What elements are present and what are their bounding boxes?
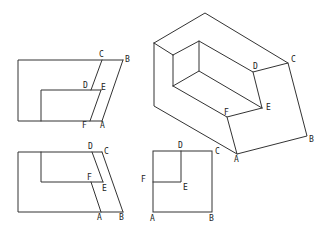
top-view-label-e: E <box>102 184 107 193</box>
side-view-step <box>153 151 181 182</box>
edge-c-b <box>102 152 123 212</box>
isometric-view-label-b: B <box>309 135 314 144</box>
front-view-label-b: B <box>125 55 130 64</box>
top-view-label-b: B <box>119 213 124 222</box>
edge-d-e <box>92 152 103 182</box>
edge-f-a <box>91 182 101 212</box>
front-view-label-f: F <box>82 121 87 130</box>
top-view-label-f: F <box>87 173 92 182</box>
top-view-label-c: C <box>104 147 109 156</box>
front-view-label-c: C <box>99 50 104 59</box>
iso-step-top <box>173 41 288 72</box>
iso-step-floor <box>173 86 262 117</box>
labels: CBDEFADCFEABDCFEABDCEFBA <box>82 50 314 223</box>
side-view-label-b: B <box>209 214 214 223</box>
edge-e-f <box>90 90 101 121</box>
isometric-view-label-a: A <box>234 155 239 164</box>
front-view-label-d: D <box>83 81 88 90</box>
top-view-label-d: D <box>88 142 93 151</box>
top-view-label-a: A <box>97 213 102 222</box>
isometric-view-label-c: C <box>291 55 296 64</box>
iso-step-back <box>173 71 262 108</box>
iso-edge-f-a <box>227 117 237 154</box>
front-view <box>18 60 123 121</box>
side-view <box>153 151 212 212</box>
side-view-label-d: D <box>178 141 183 150</box>
side-view-label-c: C <box>215 147 220 156</box>
isometric-view-label-d: D <box>253 62 258 71</box>
top-view <box>18 152 123 212</box>
front-view-label-a: A <box>100 121 105 130</box>
side-view-label-a: A <box>150 214 155 223</box>
isometric-view-label-e: E <box>266 103 271 112</box>
side-view-label-f: F <box>141 175 146 184</box>
side-view-label-e: E <box>183 183 188 192</box>
iso-edge <box>154 43 173 55</box>
drawing-canvas: CBDEFADCFEABDCFEABDCEFBA <box>0 0 331 236</box>
isometric-view-label-f: F <box>224 108 229 117</box>
iso-edge-d-e <box>253 72 262 108</box>
front-view-label-e: E <box>101 83 106 92</box>
isometric-view <box>154 13 307 154</box>
